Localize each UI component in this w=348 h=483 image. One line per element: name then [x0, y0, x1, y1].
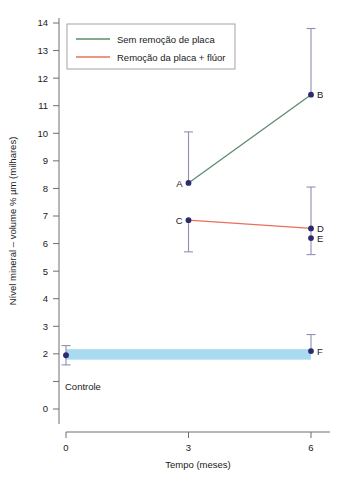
control-band-label: Controle: [65, 381, 101, 392]
x-tick-label-3: 3: [186, 442, 191, 453]
x-tick-label-6: 6: [308, 442, 313, 453]
chart-canvas: 0234567891011121314 036 ABCDEF Controle …: [0, 0, 348, 483]
y-tick-label-10: 10: [37, 128, 48, 139]
y-tick-label-2: 2: [43, 348, 48, 359]
y-axis-title: Nível mineral – volume % µm (milhares): [7, 137, 18, 306]
control-band: [66, 349, 311, 359]
x-tick-label-0: 0: [63, 442, 68, 453]
y-tick-label-6: 6: [43, 238, 48, 249]
point-label-A: A: [176, 178, 183, 189]
data-point-marker-ctrl: [63, 352, 69, 358]
y-tick-label-3: 3: [43, 321, 48, 332]
y-tick-label-8: 8: [43, 183, 48, 194]
point-label-C: C: [176, 215, 183, 226]
data-point-marker-E: [308, 235, 314, 241]
chart-background: [0, 0, 348, 483]
data-point-marker-C: [186, 217, 192, 223]
y-tick-label-4: 4: [43, 293, 48, 304]
data-point-marker-B: [308, 92, 314, 98]
control-band-rect: [66, 349, 311, 359]
legend: Sem remoção de placaRemoção da placa + f…: [67, 24, 235, 69]
x-axis-title: Tempo (meses): [165, 459, 230, 470]
y-tick-label-7: 7: [43, 210, 48, 221]
data-point-marker-D: [308, 226, 314, 232]
y-tick-label-14: 14: [37, 17, 48, 28]
data-point-marker-A: [186, 180, 192, 186]
legend-label-remocao_fluor: Remoção da placa + flúor: [117, 52, 226, 63]
mineral-level-chart: 0234567891011121314 036 ABCDEF Controle …: [0, 0, 348, 483]
y-tick-label-13: 13: [37, 45, 48, 56]
point-label-F: F: [317, 346, 323, 357]
y-tick-label-0: 0: [43, 403, 48, 414]
point-label-B: B: [317, 89, 323, 100]
point-label-E: E: [317, 233, 323, 244]
y-tick-label-9: 9: [43, 155, 48, 166]
y-tick-label-11: 11: [38, 100, 48, 111]
data-point-marker-F: [308, 348, 314, 354]
legend-label-sem_remocao: Sem remoção de placa: [117, 34, 215, 45]
y-tick-label-12: 12: [37, 73, 48, 84]
y-tick-label-5: 5: [43, 266, 48, 277]
